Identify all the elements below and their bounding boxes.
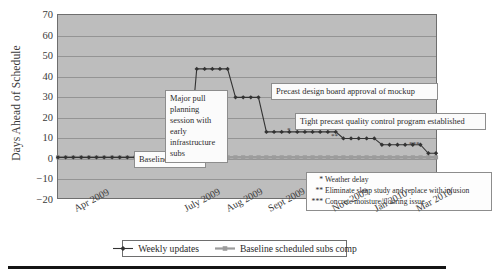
data-point-marker: [356, 136, 360, 140]
footnote-text: Weather delay: [325, 175, 368, 184]
footnote-mark: *: [310, 175, 323, 186]
data-point-marker: [218, 67, 222, 71]
data-point-marker: [295, 155, 299, 159]
data-point-marker: [272, 155, 276, 159]
y-axis-tick-label: 30: [19, 91, 53, 102]
footnote-mark: **: [310, 186, 323, 197]
data-point-marker: [210, 67, 214, 71]
callout-quality-program: Tight precast quality control program es…: [295, 113, 486, 130]
data-point-marker: [357, 155, 361, 159]
data-point-marker: [121, 246, 126, 251]
data-point-marker: [310, 130, 314, 134]
inline-footnote-mark: *: [287, 127, 291, 134]
data-point-marker: [326, 130, 330, 134]
data-point-marker: [223, 246, 228, 251]
data-point-marker: [280, 155, 284, 159]
data-point-marker: [303, 130, 307, 134]
data-point-marker: [372, 155, 376, 159]
data-point-marker: [388, 155, 392, 159]
data-point-marker: [249, 95, 253, 99]
data-point-marker: [349, 136, 353, 140]
data-point-marker: [418, 155, 422, 159]
bottom-rule: [8, 266, 446, 269]
data-point-marker: [272, 130, 276, 134]
data-point-marker: [318, 155, 322, 159]
data-point-marker: [426, 155, 430, 159]
y-axis-tick-label: 20: [19, 111, 53, 122]
y-axis-tick-label: 0: [19, 152, 53, 163]
data-point-marker: [380, 155, 384, 159]
y-axis-tick-label: 70: [19, 9, 53, 20]
data-point-marker: [310, 155, 314, 159]
data-point-marker: [326, 155, 330, 159]
data-point-marker: [395, 143, 399, 147]
data-point-marker: [264, 130, 268, 134]
data-point-marker: [364, 136, 368, 140]
y-axis-tick-label: 40: [19, 70, 53, 81]
data-point-marker: [241, 95, 245, 99]
inline-footnote-mark: ***: [409, 141, 420, 148]
plot-area: Baseline schedule Major pull planning se…: [57, 14, 437, 199]
legend-label: Baseline scheduled subs comp: [240, 243, 357, 254]
data-point-marker: [318, 130, 322, 134]
data-point-marker: [364, 155, 368, 159]
y-axis-tick-label: 50: [19, 50, 53, 61]
legend-swatch-icon: [214, 244, 236, 253]
data-point-marker: [303, 155, 307, 159]
data-point-marker: [241, 155, 245, 159]
data-point-marker: [279, 130, 283, 134]
chart-legend: Weekly updatesBaseline scheduled subs co…: [122, 240, 347, 257]
data-point-marker: [387, 143, 391, 147]
legend-swatch-icon: [112, 244, 134, 253]
data-point-marker: [395, 155, 399, 159]
data-point-marker: [233, 155, 237, 159]
y-axis-tick-label: −20: [19, 194, 53, 205]
data-point-marker: [403, 143, 407, 147]
data-point-marker: [287, 155, 291, 159]
data-point-marker: [233, 95, 237, 99]
data-point-marker: [334, 155, 338, 159]
data-point-marker: [403, 155, 407, 159]
data-point-marker: [295, 130, 299, 134]
legend-entry[interactable]: Weekly updates: [112, 243, 199, 254]
data-point-marker: [264, 155, 268, 159]
y-axis-tick-label: −10: [19, 173, 53, 184]
inline-footnote-mark: **: [331, 133, 338, 140]
footnote-row: *Weather delay: [310, 175, 488, 186]
data-point-marker: [349, 155, 353, 159]
data-point-marker: [256, 155, 260, 159]
data-point-marker: [434, 151, 438, 155]
data-point-marker: [202, 67, 206, 71]
y-axis-tick-label: 60: [19, 29, 53, 40]
legend-entry[interactable]: Baseline scheduled subs comp: [214, 243, 357, 254]
data-point-marker: [341, 155, 345, 159]
callout-precast-approval: Precast design board approval of mockup: [271, 83, 438, 100]
data-point-marker: [225, 67, 229, 71]
callout-pull-planning: Major pull planning session with early i…: [165, 90, 228, 163]
data-point-marker: [411, 155, 415, 159]
data-point-marker: [249, 155, 253, 159]
footnote-mark: ***: [310, 197, 323, 208]
series-layer: [58, 15, 436, 198]
data-point-marker: [434, 155, 438, 159]
data-point-marker: [256, 95, 260, 99]
data-point-marker: [195, 67, 199, 71]
legend-label: Weekly updates: [138, 243, 199, 254]
y-axis-tick-label: 10: [19, 132, 53, 143]
